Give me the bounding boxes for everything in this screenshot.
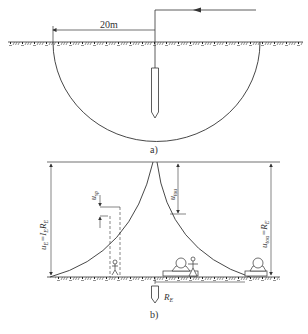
figure-a: 20m a) xyxy=(8,8,303,157)
distance-label: 20m xyxy=(100,19,118,30)
potential-curve-left xyxy=(50,162,153,277)
ground-resistance-label: RE xyxy=(163,292,174,303)
potential-curve-right xyxy=(157,162,250,277)
equipment-motor-remote-icon xyxy=(245,258,267,276)
caption-a: a) xyxy=(150,144,158,156)
current-arrow-icon xyxy=(193,8,201,13)
touch-voltage-label: utou xyxy=(168,189,178,200)
ground-hatch xyxy=(8,42,303,46)
right-touch-voltage-label: utou=RE xyxy=(259,220,270,248)
ground-voltage-label: uE=IERE xyxy=(38,220,49,250)
ground-electrode-icon-b xyxy=(152,286,159,303)
figure-b: uE=IERE usp utou utou=RE xyxy=(38,162,280,321)
grounding-diagram: 20m a) uE=IERE usp xyxy=(0,0,308,334)
person-walking-icon xyxy=(112,260,118,275)
caption-b: b) xyxy=(150,309,158,321)
current-feed-line xyxy=(155,10,256,68)
ground-hatch-b xyxy=(55,277,280,281)
step-voltage-label: usp xyxy=(89,191,99,200)
ground-electrode-icon xyxy=(152,68,159,118)
